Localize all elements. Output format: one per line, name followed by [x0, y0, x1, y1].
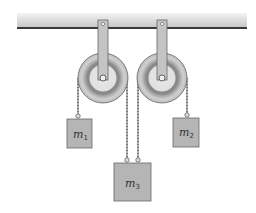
bracket-right: [157, 20, 167, 80]
bracket-bolt-left: [101, 22, 104, 25]
mass-m3: m3: [114, 163, 151, 201]
ceiling: [17, 13, 247, 29]
hook-m3-right: [136, 158, 140, 162]
mass-m1: m1: [67, 119, 92, 148]
pulley-right: [137, 20, 187, 103]
mass-m3-subscript: 3: [135, 183, 139, 191]
hook-m1: [76, 114, 80, 118]
mass-m2-symbol: m: [179, 126, 189, 139]
axle-left: [100, 75, 106, 81]
mass-m2-subscript: 2: [189, 132, 193, 140]
mass-m1-symbol: m: [73, 128, 83, 141]
rope-m3-right: [137, 78, 139, 161]
mass-m2: m2: [173, 118, 199, 147]
hook-m3-left: [125, 158, 129, 162]
axle-right: [159, 75, 165, 81]
mass-m1-subscript: 1: [83, 134, 87, 142]
bracket-bolt-right: [160, 22, 163, 25]
pulley-left: [78, 20, 128, 103]
hooks: [76, 113, 189, 162]
mass-m3-symbol: m: [125, 177, 135, 190]
rope-m3-left: [126, 78, 128, 161]
pulley-diagram: m1 m2 m3: [0, 0, 256, 213]
hook-m2: [185, 113, 189, 117]
bracket-left: [98, 20, 108, 80]
